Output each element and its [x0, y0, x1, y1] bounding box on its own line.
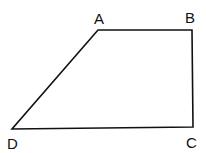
vertex-label-b: B — [185, 9, 195, 26]
quadrilateral-abcd — [12, 30, 193, 129]
vertex-label-d: D — [7, 135, 18, 152]
vertex-label-c: C — [186, 134, 197, 151]
vertex-label-a: A — [94, 10, 104, 27]
quadrilateral-diagram: A B C D — [0, 0, 206, 153]
